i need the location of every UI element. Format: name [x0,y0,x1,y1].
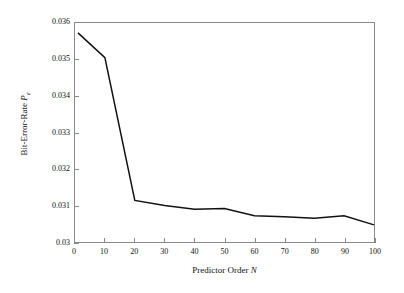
x-tick-label: 60 [251,248,259,256]
x-tick-mark [315,238,316,243]
x-tick-label: 80 [311,248,319,256]
y-tick-label: 0.036 [52,18,70,26]
y-tick-mark [74,169,79,170]
y-tick-label: 0.031 [52,202,70,210]
y-tick-mark [74,96,79,97]
x-axis-tick-labels: 0102030405060708090100 [74,248,375,260]
x-axis-title: Predictor Order N [74,265,375,275]
x-tick-mark [104,238,105,243]
y-tick-label: 0.032 [52,165,70,173]
y-tick-mark [74,22,79,23]
x-tick-mark [74,238,75,243]
x-tick-label: 40 [190,248,198,256]
x-tick-mark [194,238,195,243]
x-tick-label: 50 [221,248,229,256]
y-tick-mark [74,243,79,244]
data-series-line [75,23,374,242]
y-axis-tick-labels: 0.030.0310.0320.0330.0340.0350.036 [26,22,70,243]
y-tick-label: 0.034 [52,92,70,100]
y-tick-mark [74,133,79,134]
y-tick-label: 0.035 [52,55,70,63]
x-tick-mark [255,238,256,243]
y-tick-label: 0.03 [56,239,70,247]
x-tick-label: 90 [341,248,349,256]
x-tick-label: 20 [130,248,138,256]
x-tick-mark [225,238,226,243]
x-tick-label: 30 [160,248,168,256]
x-tick-mark [285,238,286,243]
x-axis-title-text: Predictor Order [192,265,250,275]
chart-figure: Bit-Error-Rate Pe 0.030.0310.0320.0330.0… [0,0,404,293]
x-tick-mark [345,238,346,243]
y-tick-label: 0.033 [52,129,70,137]
y-tick-mark [74,206,79,207]
x-tick-mark [164,238,165,243]
x-tick-label: 10 [100,248,108,256]
plot-area [74,22,375,243]
y-tick-mark [74,59,79,60]
x-tick-mark [134,238,135,243]
x-tick-label: 0 [72,248,76,256]
x-tick-mark [375,238,376,243]
x-axis-title-symbol: N [251,265,257,275]
x-tick-label: 100 [369,248,381,256]
x-tick-label: 70 [281,248,289,256]
